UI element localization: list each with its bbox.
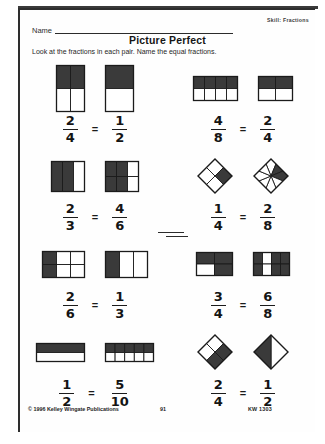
equals-sign: = [240, 124, 246, 135]
fraction-denominator: 6 [113, 219, 126, 232]
equals-sign: = [92, 212, 98, 223]
equals-sign: = [240, 300, 246, 311]
problem-grid: 24=1248=2423=4614=2826=1334=6812=51024=1… [20, 62, 317, 414]
fraction-left: 14 [211, 202, 226, 232]
instructions-text: Look at the fractions in each pair. Name… [32, 48, 216, 55]
fraction-numerator: 2 [261, 202, 274, 215]
figure-left [35, 342, 86, 363]
fraction-numerator: 1 [212, 202, 225, 215]
problem-answer-row[interactable]: 34=68 [170, 288, 316, 322]
fraction-denominator: 4 [212, 307, 225, 320]
figure-right [252, 251, 291, 277]
problem-6: 34=68 [170, 238, 316, 326]
row-divider [158, 232, 184, 233]
fraction-numerator: 1 [261, 378, 274, 391]
figure-right [252, 157, 290, 195]
fraction-left: 48 [211, 114, 226, 144]
figure-right [104, 250, 149, 279]
problem-answer-row[interactable]: 26=13 [22, 288, 168, 322]
problem-answer-row[interactable]: 14=28 [170, 200, 316, 234]
fraction-denominator: 6 [64, 307, 77, 320]
fraction-numerator: 2 [64, 290, 77, 303]
fraction-right: 24 [260, 114, 275, 144]
equals-sign: = [88, 388, 94, 399]
figure-right [104, 160, 140, 193]
fraction-right: 68 [260, 290, 275, 320]
row-divider [166, 236, 188, 237]
fraction-left: 12 [59, 378, 74, 408]
worksheet-page: Skill: Fractions Name Picture Perfect Lo… [0, 0, 325, 444]
figure-right [252, 333, 290, 371]
figure-left [41, 250, 86, 279]
figure-left [196, 157, 234, 195]
fraction-numerator: 2 [212, 378, 225, 391]
figure-right [104, 342, 155, 363]
problem-figures [170, 328, 316, 376]
problem-3: 23=46 [22, 150, 168, 238]
fraction-denominator: 3 [113, 307, 126, 320]
fraction-left: 24 [211, 378, 226, 408]
fraction-left: 24 [63, 114, 78, 144]
equals-sign: = [240, 388, 246, 399]
fraction-numerator: 1 [113, 290, 126, 303]
page-number: 91 [160, 406, 166, 412]
problem-answer-row[interactable]: 24=12 [22, 112, 168, 146]
equals-sign: = [92, 300, 98, 311]
problem-5: 26=13 [22, 238, 168, 326]
figure-right [104, 64, 135, 113]
problem-row: 12=51024=12 [20, 326, 317, 414]
problem-figures [22, 240, 168, 288]
page-footer: © 1996 Kelley Wingate Publications 91 KW… [20, 406, 317, 420]
figure-left [55, 64, 86, 113]
problem-answer-row[interactable]: 24=12 [170, 376, 316, 410]
fraction-right: 12 [112, 114, 127, 144]
problem-4: 14=28 [170, 150, 316, 238]
copyright-text: © 1996 Kelley Wingate Publications [28, 406, 119, 412]
fraction-right: 12 [260, 378, 275, 408]
problem-row: 24=1248=24 [20, 62, 317, 150]
fraction-numerator: 1 [60, 378, 73, 391]
problem-figures [170, 64, 316, 112]
figure-left [195, 251, 234, 277]
equals-sign: = [92, 124, 98, 135]
problem-1: 24=12 [22, 62, 168, 150]
fraction-denominator: 3 [64, 219, 77, 232]
problem-7: 12=510 [22, 326, 168, 414]
fraction-numerator: 1 [113, 114, 126, 127]
fraction-numerator: 2 [64, 202, 77, 215]
fraction-denominator: 8 [261, 307, 274, 320]
problem-figures [22, 64, 168, 112]
problem-answer-row[interactable]: 23=46 [22, 200, 168, 234]
problem-figures [22, 152, 168, 200]
figure-left [196, 333, 234, 371]
problem-row: 26=1334=68 [20, 238, 317, 326]
fraction-denominator: 8 [261, 219, 274, 232]
problem-figures [170, 240, 316, 288]
problem-8: 24=12 [170, 326, 316, 414]
fraction-right: 13 [112, 290, 127, 320]
problem-figures [170, 152, 316, 200]
fraction-left: 34 [211, 290, 226, 320]
problem-row: 23=4614=28 [20, 150, 317, 238]
fraction-numerator: 2 [261, 114, 274, 127]
fraction-denominator: 4 [64, 131, 77, 144]
fraction-denominator: 4 [261, 131, 274, 144]
fraction-left: 26 [63, 290, 78, 320]
figure-right [257, 75, 294, 102]
fraction-right: 46 [112, 202, 127, 232]
problem-answer-row[interactable]: 12=510 [22, 376, 168, 410]
fraction-numerator: 4 [212, 114, 225, 127]
fraction-denominator: 4 [212, 219, 225, 232]
figure-left [192, 75, 239, 102]
problem-answer-row[interactable]: 48=24 [170, 112, 316, 146]
fraction-numerator: 4 [113, 202, 126, 215]
fraction-right: 510 [109, 378, 131, 408]
skill-label: Skill: Fractions [267, 17, 309, 23]
publisher-code: KW 1303 [248, 406, 272, 412]
fraction-numerator: 5 [113, 378, 126, 391]
worksheet-sheet: Skill: Fractions Name Picture Perfect Lo… [18, 8, 315, 432]
fraction-denominator: 2 [113, 131, 126, 144]
equals-sign: = [240, 212, 246, 223]
fraction-right: 28 [260, 202, 275, 232]
fraction-left: 23 [63, 202, 78, 232]
